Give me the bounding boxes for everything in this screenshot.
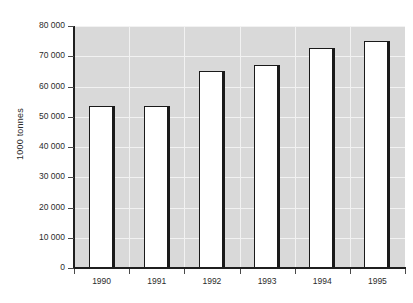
x-axis-tick	[240, 269, 241, 274]
y-axis-title-label: 1000 tonnes	[15, 108, 25, 160]
y-axis-tick	[68, 177, 74, 178]
x-axis-tick	[350, 269, 351, 274]
x-axis-tick	[295, 269, 296, 274]
gridline-vertical	[350, 26, 351, 268]
plot-area	[74, 26, 405, 268]
bar-1993	[254, 65, 280, 268]
x-axis-tick-label: 1994	[295, 277, 350, 286]
y-axis-tick-label: 50 000	[39, 112, 65, 121]
x-axis-tick-label: 1993	[240, 277, 295, 286]
bar-1995	[364, 41, 390, 269]
x-axis-tick	[74, 269, 75, 274]
x-axis-tick-label: 1990	[74, 277, 129, 286]
y-axis-tick-label: 70 000	[39, 51, 65, 60]
x-axis-tick	[405, 269, 406, 274]
gridline-vertical	[240, 26, 241, 268]
y-axis-tick	[68, 87, 74, 88]
y-axis-tick-label: 60 000	[39, 82, 65, 91]
y-axis-tick-label: 40 000	[39, 142, 65, 151]
gridline-vertical	[129, 26, 130, 268]
y-axis-tick	[68, 117, 74, 118]
bar-1992	[199, 71, 225, 268]
gridline-vertical	[184, 26, 185, 268]
y-axis-tick-label: 30 000	[39, 172, 65, 181]
y-axis-title: 1000 tonnes	[12, 0, 28, 268]
y-axis-tick	[68, 26, 74, 27]
y-axis-tick-label: 20 000	[39, 203, 65, 212]
bar-1991	[144, 106, 170, 268]
y-axis-tick-label: 80 000	[39, 21, 65, 30]
x-axis-tick	[129, 269, 130, 274]
x-axis-tick	[184, 269, 185, 274]
y-axis-tick	[68, 238, 74, 239]
bar-chart: 1000 tonnes 010 00020 00030 00040 00050 …	[0, 0, 413, 303]
gridline-vertical	[295, 26, 296, 268]
y-axis-tick	[68, 147, 74, 148]
x-axis-tick-label: 1992	[184, 277, 239, 286]
bar-1990	[89, 106, 115, 268]
x-axis-tick-label: 1991	[129, 277, 184, 286]
y-axis-tick	[68, 208, 74, 209]
y-axis-tick-label: 0	[60, 263, 65, 272]
y-axis-tick	[68, 56, 74, 57]
bar-1994	[309, 48, 335, 268]
y-axis-tick-label: 10 000	[39, 233, 65, 242]
x-axis-tick-label: 1995	[350, 277, 405, 286]
